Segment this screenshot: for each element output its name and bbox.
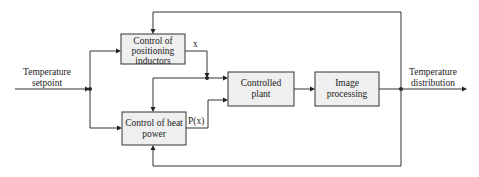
- arrow-px-to-plant: [223, 98, 228, 103]
- block-heat-line2: power: [142, 129, 167, 139]
- arrow-feedback-bottom: [151, 145, 156, 150]
- arrow-x-to-heat: [151, 107, 156, 112]
- signal-px-label: P(x): [188, 116, 204, 127]
- input-label-line2: setpoint: [32, 78, 62, 88]
- line-to-positioning: [90, 51, 119, 89]
- block-image-line2: processing: [327, 89, 368, 99]
- input-label-line1: Temperature: [23, 67, 71, 77]
- control-block-diagram: Control of positioning inductors Control…: [0, 0, 479, 177]
- signal-x-label: x: [193, 39, 198, 49]
- block-positioning-line1: Control of: [133, 36, 173, 46]
- output-arrowhead: [462, 87, 467, 92]
- block-controlled-plant: Controlled plant: [228, 72, 294, 106]
- arrow-to-positioning: [116, 49, 121, 54]
- arrow-x-to-plant: [223, 76, 228, 81]
- block-positioning-line2: positioning: [132, 46, 175, 56]
- block-positioning-inductors: Control of positioning inductors: [121, 34, 185, 66]
- arrow-feedback-top: [151, 29, 156, 34]
- block-image-processing: Image processing: [315, 72, 379, 106]
- block-plant-line1: Controlled: [241, 78, 282, 88]
- block-heat-line1: Control of heat: [125, 118, 183, 128]
- block-image-line1: Image: [335, 78, 359, 88]
- line-to-heat: [90, 89, 120, 128]
- block-positioning-line3: inductors: [135, 56, 171, 66]
- line-x: [185, 51, 207, 76]
- block-heat-power: Control of heat power: [122, 112, 186, 145]
- arrow-to-heat: [117, 126, 122, 131]
- output-label-line1: Temperature: [409, 67, 457, 77]
- output-label-line2: distribution: [411, 78, 455, 88]
- line-x-to-heat: [153, 78, 207, 110]
- block-plant-line2: plant: [252, 89, 271, 99]
- arrow-plant-to-image: [310, 87, 315, 92]
